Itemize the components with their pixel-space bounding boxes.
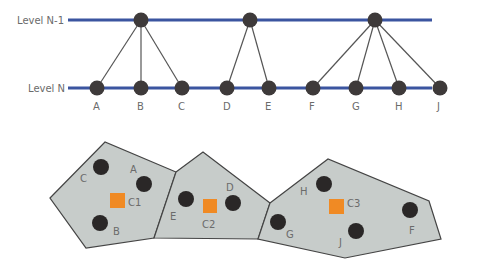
node-j	[433, 81, 448, 96]
node-label-b: B	[137, 101, 144, 112]
node-d	[220, 81, 235, 96]
hierarchy-edges	[97, 20, 440, 88]
node-f	[306, 81, 321, 96]
point-a	[136, 176, 152, 192]
node-label-c: C	[178, 101, 185, 112]
centroid-c3	[329, 199, 344, 214]
label-c2: C2	[202, 219, 215, 230]
point-label-g: G	[286, 229, 294, 240]
node-a	[90, 81, 105, 96]
node-label-g: G	[352, 101, 360, 112]
node-label-e: E	[265, 101, 271, 112]
point-d	[225, 195, 241, 211]
node-label-h: H	[395, 101, 403, 112]
hierarchy-cluster-diagram: Level N-1 Level N A B C D E F G H J	[0, 0, 480, 266]
point-h	[316, 176, 332, 192]
centroid-c2	[203, 199, 217, 213]
parent-node	[368, 13, 383, 28]
child-nodes	[90, 81, 448, 96]
point-c	[93, 159, 109, 175]
node-e	[262, 81, 277, 96]
centroid-c1	[110, 193, 125, 208]
parent-node	[134, 13, 149, 28]
node-b	[134, 81, 149, 96]
node-g	[349, 81, 364, 96]
point-j	[348, 223, 364, 239]
point-label-j: J	[338, 237, 342, 248]
level-n1-label: Level N-1	[17, 15, 64, 26]
point-label-e: E	[170, 211, 176, 222]
parent-node	[243, 13, 258, 28]
node-label-a: A	[93, 101, 100, 112]
node-label-d: D	[223, 101, 231, 112]
node-label-f: F	[309, 101, 315, 112]
point-f	[402, 202, 418, 218]
point-label-c: C	[80, 173, 87, 184]
point-label-h: H	[300, 186, 308, 197]
level-n-label: Level N	[28, 83, 65, 94]
node-h	[392, 81, 407, 96]
point-b	[92, 215, 108, 231]
point-e	[178, 191, 194, 207]
point-g	[270, 214, 286, 230]
point-label-f: F	[409, 225, 415, 236]
node-c	[175, 81, 190, 96]
point-label-a: A	[130, 164, 137, 175]
point-label-d: D	[226, 182, 234, 193]
node-label-j: J	[436, 101, 440, 112]
point-label-b: B	[113, 226, 120, 237]
label-c1: C1	[128, 197, 141, 208]
label-c3: C3	[347, 198, 360, 209]
